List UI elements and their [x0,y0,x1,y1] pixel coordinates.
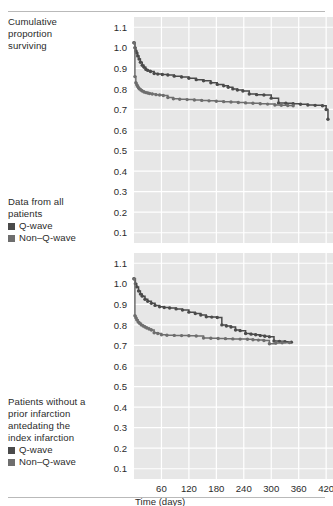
series-marker [150,302,153,305]
x-tick-label: 240 [236,483,252,494]
y-tick-label: 1.1 [114,258,127,269]
y-tick-label: 0.6 [114,361,127,372]
x-tick-label: 300 [263,483,279,494]
chart-bottom: 0.10.20.30.40.50.60.70.80.91.01.16012018… [0,0,333,506]
series-marker [259,334,262,337]
x-axis-title: Time (days) [135,496,185,506]
x-tick-label: 60 [156,483,167,494]
series-marker [251,338,254,341]
series-marker [174,307,177,310]
series-marker [268,335,271,338]
y-tick-label: 0.1 [114,463,127,474]
x-tick-label: 120 [181,483,197,494]
y-tick-label: 0.7 [114,340,127,351]
series-marker [162,306,165,309]
series-marker [229,325,232,328]
x-tick-label: 420 [318,483,333,494]
series-marker [141,294,144,297]
series-marker [205,315,208,318]
series-marker [180,334,183,337]
series-marker [249,332,252,335]
series-marker [199,313,202,316]
series-marker [238,337,241,340]
y-tick-label: 0.5 [114,381,127,392]
y-tick-label: 0.4 [114,402,128,413]
series-marker [132,277,135,280]
series-marker [288,341,291,344]
series-marker [165,333,168,336]
series-marker [143,298,146,301]
series-marker [224,337,227,340]
series-marker [254,333,257,336]
series-marker [274,341,277,344]
series-marker [257,338,260,341]
series-marker [216,337,219,340]
series-marker [152,331,155,334]
series-marker [210,315,213,318]
figure-container: Cumulative proportion surviving Data fro… [0,0,333,506]
series-marker [281,341,284,344]
y-tick-label: 0.2 [114,443,127,454]
series-marker [146,300,149,303]
series-marker [158,305,161,308]
series-marker [216,316,219,319]
x-tick-label: 360 [291,483,307,494]
series-marker [263,335,266,338]
y-tick-label: 1.0 [114,278,127,289]
series-marker [194,312,197,315]
series-marker [187,334,190,337]
series-marker [195,334,198,337]
series-marker [231,337,234,340]
series-marker [246,338,249,341]
series-marker [150,328,153,331]
series-marker [153,304,156,307]
series-marker [238,329,241,332]
series-marker [268,342,271,345]
series-marker [225,324,228,327]
series-marker [181,308,184,311]
series-marker [220,323,223,326]
series-marker [160,333,163,336]
series-marker [173,334,176,337]
series-marker [234,328,237,331]
series-marker [244,332,247,335]
x-tick-label: 180 [208,483,224,494]
series-marker [262,339,265,342]
series-marker [168,306,171,309]
y-tick-label: 0.9 [114,299,127,310]
series-marker [202,336,205,339]
y-tick-label: 0.8 [114,320,127,331]
y-tick-label: 0.3 [114,422,127,433]
series-marker [156,332,159,335]
series-marker [137,289,140,292]
series-marker [209,337,212,340]
series-marker [187,310,190,313]
